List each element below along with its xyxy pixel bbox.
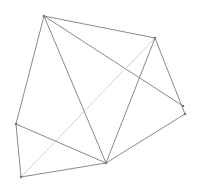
edge-G-F <box>21 163 106 177</box>
vertex-G <box>20 176 23 179</box>
vertex-A <box>43 15 46 18</box>
edge-E-G <box>16 124 21 177</box>
vertex-F <box>105 162 108 165</box>
vertex-B <box>154 37 157 40</box>
vertex-E <box>15 123 18 126</box>
vertex-C <box>182 105 185 108</box>
graph-drawing <box>0 0 202 191</box>
edge-A-F <box>44 16 106 163</box>
edge-B-D <box>155 38 185 114</box>
vertex-D <box>184 113 187 116</box>
edges-layer <box>16 16 185 177</box>
edge-A-E <box>16 16 44 124</box>
nodes-layer <box>15 15 187 179</box>
edge-B-F <box>106 38 155 163</box>
edge-D-F <box>106 114 185 163</box>
edge-B-G <box>21 38 155 177</box>
graph-diagram <box>0 0 202 191</box>
